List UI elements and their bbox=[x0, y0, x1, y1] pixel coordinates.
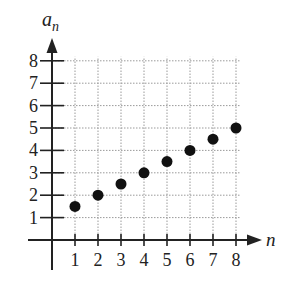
grid bbox=[52, 57, 240, 240]
data-point bbox=[139, 167, 150, 178]
scatter-chart: 1234567812345678 n an bbox=[0, 0, 290, 287]
x-axis-arrow-icon bbox=[247, 235, 262, 246]
y-axis-label-sub: n bbox=[52, 19, 59, 34]
x-tick-label: 3 bbox=[117, 250, 126, 270]
data-points bbox=[70, 123, 242, 212]
y-tick-label: 2 bbox=[29, 185, 38, 205]
ticks bbox=[40, 61, 236, 246]
data-point bbox=[116, 179, 127, 190]
data-point bbox=[70, 201, 81, 212]
y-tick-label: 7 bbox=[29, 73, 38, 93]
y-tick-label: 6 bbox=[29, 96, 38, 116]
x-axis-label: n bbox=[266, 229, 276, 250]
x-tick-label: 8 bbox=[232, 250, 241, 270]
y-axis-label: an bbox=[42, 8, 59, 34]
y-axis-label-base: a bbox=[42, 8, 52, 30]
y-tick-label: 4 bbox=[29, 140, 38, 160]
y-tick-label: 5 bbox=[29, 118, 38, 138]
x-tick-label: 7 bbox=[209, 250, 218, 270]
x-tick-label: 6 bbox=[186, 250, 195, 270]
x-tick-label: 5 bbox=[163, 250, 172, 270]
axes bbox=[28, 38, 262, 270]
y-axis-arrow-icon bbox=[47, 38, 58, 53]
data-point bbox=[185, 145, 196, 156]
data-point bbox=[231, 123, 242, 134]
x-tick-label: 4 bbox=[140, 250, 149, 270]
data-point bbox=[162, 156, 173, 167]
data-point bbox=[208, 134, 219, 145]
y-tick-label: 8 bbox=[29, 51, 38, 71]
data-point bbox=[93, 190, 104, 201]
x-tick-label: 1 bbox=[71, 250, 80, 270]
x-tick-label: 2 bbox=[94, 250, 103, 270]
y-tick-label: 1 bbox=[29, 208, 38, 228]
y-tick-label: 3 bbox=[29, 163, 38, 183]
